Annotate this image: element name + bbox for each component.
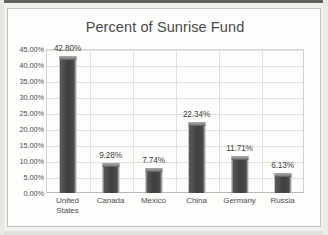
bar[interactable] [188, 122, 205, 193]
bar-value-label: 22.34% [183, 110, 210, 119]
y-axis-tick-label: 0.00% [8, 189, 44, 198]
scan-edge-top [0, 0, 328, 3]
y-axis-tick-label: 45.00% [8, 45, 44, 54]
scan-edge-left [0, 0, 4, 235]
bar-slot: 11.71% [218, 49, 261, 193]
bar-top-cap [59, 56, 76, 60]
bar-value-label: 6.13% [271, 161, 294, 170]
scanned-page-background: Percent of Sunrise Fund 0.00%5.00%10.00%… [0, 0, 328, 235]
bar-top-cap [102, 163, 119, 167]
bar-slot: 6.13% [261, 49, 304, 193]
y-axis-tick-label: 40.00% [8, 61, 44, 70]
x-axis-category-label: Mexico [132, 196, 175, 206]
bar[interactable] [231, 156, 248, 193]
bar-slot: 42.80% [46, 49, 89, 193]
x-axis-category-label: Russia [261, 196, 304, 206]
scan-edge-right [323, 0, 328, 235]
y-axis-tick-label: 35.00% [8, 77, 44, 86]
bar[interactable] [274, 173, 291, 193]
scan-edge-bottom [0, 231, 328, 235]
x-axis-category-label: United States [46, 196, 89, 216]
x-axis-category-label: Germany [218, 196, 261, 206]
bar-value-label: 11.71% [226, 144, 253, 153]
y-axis-tick-label: 25.00% [8, 109, 44, 118]
bar-value-label: 42.80% [54, 44, 81, 53]
bar[interactable] [102, 163, 119, 193]
bar-series: 42.80%9.28%7.74%22.34%11.71%6.13% [46, 49, 304, 193]
y-axis-tick-labels: 0.00%5.00%10.00%15.00%20.00%25.00%30.00%… [8, 49, 44, 193]
bar[interactable] [145, 168, 162, 193]
y-axis-tick-label: 10.00% [8, 157, 44, 166]
bar-top-cap [188, 122, 205, 126]
bar-top-cap [145, 168, 162, 172]
chart-title: Percent of Sunrise Fund [8, 19, 322, 35]
y-axis-tick-label: 20.00% [8, 125, 44, 134]
y-axis-tick-label: 15.00% [8, 141, 44, 150]
bar-slot: 7.74% [132, 49, 175, 193]
bar-value-label: 9.28% [99, 151, 122, 160]
bar-slot: 22.34% [175, 49, 218, 193]
bar-value-label: 7.74% [142, 156, 165, 165]
y-axis-tick-label: 5.00% [8, 173, 44, 182]
x-axis-category-label: Canada [89, 196, 132, 206]
chart-container: Percent of Sunrise Fund 0.00%5.00%10.00%… [7, 8, 321, 227]
bar[interactable] [59, 56, 76, 193]
x-axis-category-labels: United StatesCanadaMexicoChinaGermanyRus… [46, 196, 304, 226]
bar-top-cap [274, 173, 291, 177]
y-axis-tick-label: 30.00% [8, 93, 44, 102]
bar-top-cap [231, 156, 248, 160]
x-axis-category-label: China [175, 196, 218, 206]
bar-slot: 9.28% [89, 49, 132, 193]
